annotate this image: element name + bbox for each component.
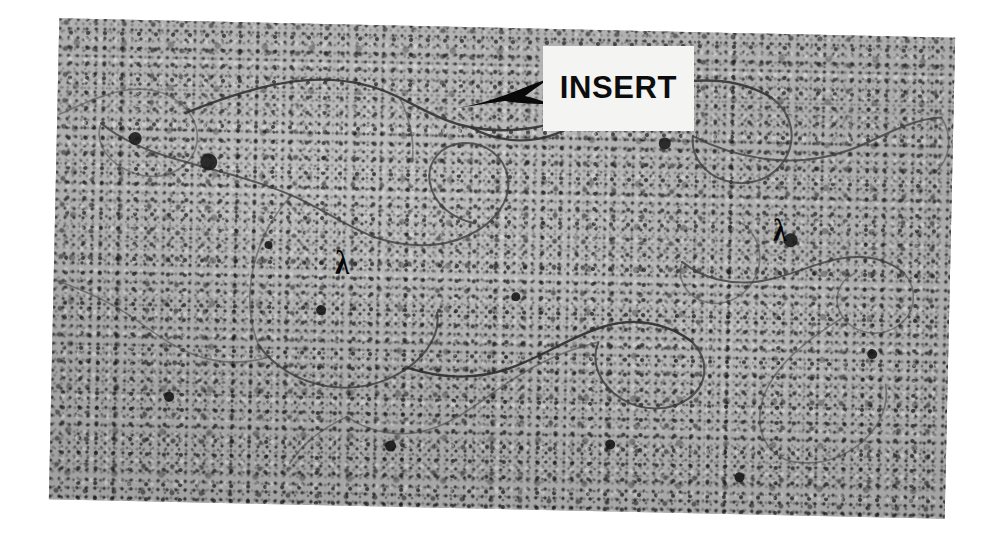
dna-strand-right-edge-loop — [836, 271, 914, 334]
dna-strand-far-right — [936, 117, 949, 171]
dna-strand-upper-right-fold — [692, 96, 793, 184]
dna-strand-upper-mid — [398, 98, 414, 162]
insert-arrow-icon — [455, 78, 551, 116]
dna-strand-lower-center-big — [408, 317, 693, 381]
dna-strand-lower-left-loop — [257, 309, 437, 390]
dna-strand-right-bottom-curl — [759, 316, 843, 464]
dna-strand-upper-left-loop — [58, 87, 198, 177]
stain-blob — [200, 153, 217, 170]
dna-strand-right-upper — [692, 112, 941, 164]
dna-strand-right-lower-zigzag — [682, 253, 905, 286]
dna-strand-lower-tail — [346, 337, 598, 438]
dna-strand-mid-center-loop — [374, 141, 509, 247]
lambda-label-left: λ — [335, 246, 350, 280]
insert-label-text: INSERT — [560, 72, 677, 103]
stain-blob — [384, 440, 395, 451]
lambda-label-right: λ — [773, 214, 787, 246]
stain-blob — [511, 292, 520, 301]
stain-blob — [128, 131, 141, 144]
dna-strand-left-lower — [54, 280, 198, 355]
dna-strand-right-mid-wiggle — [680, 220, 761, 304]
dna-strand-bottom-center — [290, 415, 347, 464]
dna-strand-lower-return — [594, 340, 705, 409]
figure-root: INSERT λ λ — [0, 0, 992, 547]
dna-strand-lower-right-arc — [800, 383, 887, 465]
stain-blob — [605, 439, 615, 449]
dna-strand-mid-descend — [249, 195, 292, 346]
insert-label-box: INSERT — [543, 46, 694, 131]
dna-strand-left-bottom — [196, 355, 268, 363]
